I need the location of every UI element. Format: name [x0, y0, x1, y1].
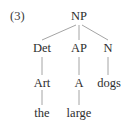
syntax-tree-figure: (3) NP Det AP N Art A dogs the large [0, 0, 132, 125]
tree-node-n: N [103, 42, 112, 55]
branch-np-det [42, 25, 76, 40]
tree-node-ap: AP [71, 42, 87, 55]
branch-np-n [82, 25, 108, 40]
example-number-label: (3) [10, 10, 25, 23]
tree-node-the: the [34, 107, 49, 120]
tree-node-a: A [74, 77, 83, 90]
tree-node-art: Art [34, 77, 51, 90]
tree-node-np: NP [71, 10, 87, 23]
tree-node-dogs: dogs [97, 77, 121, 90]
tree-node-det: Det [33, 42, 51, 55]
tree-node-large: large [67, 107, 92, 120]
